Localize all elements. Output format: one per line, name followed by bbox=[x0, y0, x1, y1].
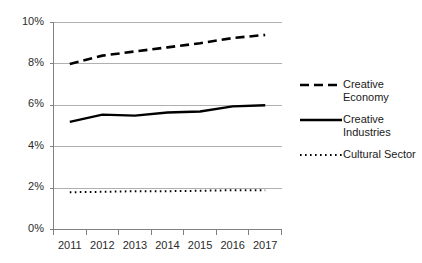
x-tick-label: 2017 bbox=[245, 239, 285, 251]
chart-legend: Creative EconomyCreative IndustriesCultu… bbox=[300, 78, 422, 171]
legend-label: Creative Industries bbox=[342, 113, 391, 139]
y-tick-label: 10% bbox=[4, 15, 44, 27]
y-tick-label: 4% bbox=[4, 139, 44, 151]
gridlines bbox=[54, 23, 282, 230]
legend-line-sample-icon bbox=[300, 78, 342, 92]
legend-item: Creative Industries bbox=[300, 113, 422, 139]
y-tick-label: 0% bbox=[4, 222, 44, 234]
legend-label: Cultural Sector bbox=[342, 148, 416, 161]
series-line-1 bbox=[70, 105, 265, 122]
y-tick-label: 2% bbox=[4, 180, 44, 192]
legend-line-sample-icon bbox=[300, 113, 342, 127]
legend-line-sample-icon bbox=[300, 148, 342, 162]
axis-lines bbox=[50, 23, 282, 235]
series-line-2 bbox=[70, 190, 265, 192]
y-tick-label: 8% bbox=[4, 56, 44, 68]
y-tick-label: 6% bbox=[4, 97, 44, 109]
line-chart: 0%2%4%6%8%10% 20112012201320142015201620… bbox=[0, 0, 422, 263]
legend-item: Cultural Sector bbox=[300, 148, 422, 162]
series-line-0 bbox=[70, 35, 265, 64]
legend-item: Creative Economy bbox=[300, 78, 422, 104]
legend-label: Creative Economy bbox=[342, 78, 389, 104]
